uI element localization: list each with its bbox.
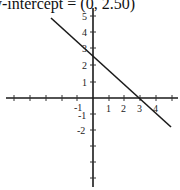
y-tick-label-4: 4	[82, 27, 87, 38]
y-tick-label-neg1: -1	[78, 110, 86, 121]
x-tick-label-3: 3	[137, 103, 142, 114]
y-tick-label-2: 2	[82, 60, 87, 71]
y-tick-label-5: 5	[82, 11, 87, 22]
coordinate-plane: y-intercept = (0, 2.50) 5 4 3 2 1 -1 -1 …	[0, 0, 180, 190]
plotted-line	[51, 18, 171, 127]
x-tick-label-1: 1	[106, 103, 111, 114]
x-tick-label-2: 2	[121, 103, 126, 114]
y-tick-label-1: 1	[82, 77, 87, 88]
chart-title: y-intercept = (0, 2.50)	[0, 0, 135, 13]
y-tick-label-neg2: -2	[77, 125, 85, 136]
